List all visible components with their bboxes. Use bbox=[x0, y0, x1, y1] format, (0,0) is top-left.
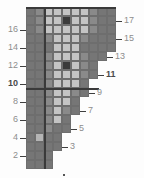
chart-cell[interactable] bbox=[53, 52, 62, 61]
chart-cell[interactable] bbox=[98, 16, 107, 25]
chart-cell[interactable] bbox=[71, 25, 80, 34]
chart-cell[interactable] bbox=[62, 115, 71, 124]
chart-cell[interactable] bbox=[53, 34, 62, 43]
chart-cell[interactable] bbox=[26, 61, 35, 70]
chart-cell[interactable] bbox=[80, 52, 89, 61]
chart-cell[interactable] bbox=[53, 70, 62, 79]
row-tick-left bbox=[20, 66, 26, 67]
row-tick-right bbox=[89, 93, 95, 94]
chart-cell[interactable] bbox=[35, 133, 44, 142]
chart-cell[interactable] bbox=[89, 52, 98, 61]
chart-cell[interactable] bbox=[71, 70, 80, 79]
chart-cell[interactable] bbox=[71, 97, 80, 106]
chart-cell[interactable] bbox=[80, 25, 89, 34]
chart-cell[interactable] bbox=[89, 16, 98, 25]
chart-cell[interactable] bbox=[53, 106, 62, 115]
chart-cell[interactable] bbox=[62, 43, 71, 52]
chart-cell[interactable] bbox=[35, 151, 44, 160]
chart-cell[interactable] bbox=[107, 34, 116, 43]
chart-cell[interactable] bbox=[107, 25, 116, 34]
chart-cell[interactable] bbox=[26, 106, 35, 115]
chart-cell[interactable] bbox=[71, 52, 80, 61]
chart-cell[interactable] bbox=[53, 61, 62, 70]
chart-cell[interactable] bbox=[89, 70, 98, 79]
chart-cell[interactable] bbox=[98, 34, 107, 43]
chart-cell[interactable] bbox=[35, 25, 44, 34]
chart-cell[interactable] bbox=[26, 151, 35, 160]
chart-cell[interactable] bbox=[53, 115, 62, 124]
chart-cell[interactable] bbox=[71, 43, 80, 52]
chart-cell[interactable] bbox=[53, 142, 62, 151]
chart-cell[interactable] bbox=[98, 43, 107, 52]
chart-cell[interactable] bbox=[53, 97, 62, 106]
chart-cell[interactable] bbox=[26, 43, 35, 52]
chart-cell[interactable] bbox=[89, 43, 98, 52]
chart-cell[interactable] bbox=[35, 97, 44, 106]
chart-cell[interactable] bbox=[71, 106, 80, 115]
chart-cell[interactable] bbox=[89, 34, 98, 43]
row-label-left: 12 bbox=[2, 61, 18, 70]
chart-cell[interactable] bbox=[62, 61, 71, 70]
chart-cell[interactable] bbox=[80, 16, 89, 25]
chart-cell[interactable] bbox=[98, 52, 107, 61]
chart-cell[interactable] bbox=[98, 25, 107, 34]
chart-cell[interactable] bbox=[53, 79, 62, 88]
chart-cell[interactable] bbox=[35, 115, 44, 124]
chart-cell[interactable] bbox=[35, 61, 44, 70]
chart-cell[interactable] bbox=[26, 16, 35, 25]
chart-cell[interactable] bbox=[53, 43, 62, 52]
chart-cell[interactable] bbox=[62, 52, 71, 61]
chart-cell[interactable] bbox=[35, 52, 44, 61]
chart-cell[interactable] bbox=[26, 97, 35, 106]
chart-cell[interactable] bbox=[62, 79, 71, 88]
chart-cell[interactable] bbox=[35, 34, 44, 43]
chart-cell[interactable] bbox=[80, 61, 89, 70]
chart-cell[interactable] bbox=[53, 16, 62, 25]
chart-cell[interactable] bbox=[35, 106, 44, 115]
chart-cell[interactable] bbox=[35, 142, 44, 151]
chart-cell[interactable] bbox=[26, 25, 35, 34]
chart-cell[interactable] bbox=[26, 34, 35, 43]
chart-cell[interactable] bbox=[26, 115, 35, 124]
chart-cell[interactable] bbox=[80, 70, 89, 79]
chart-cell[interactable] bbox=[35, 124, 44, 133]
chart-cell[interactable] bbox=[71, 61, 80, 70]
chart-cell[interactable] bbox=[62, 124, 71, 133]
chart-cell[interactable] bbox=[62, 70, 71, 79]
row-tick-right bbox=[62, 147, 68, 148]
chart-cell[interactable] bbox=[26, 124, 35, 133]
chart-cell[interactable] bbox=[35, 16, 44, 25]
chart-cell[interactable] bbox=[80, 34, 89, 43]
chart-cell[interactable] bbox=[53, 25, 62, 34]
chart-cell[interactable] bbox=[80, 79, 89, 88]
chart-cell[interactable] bbox=[62, 106, 71, 115]
chart-cell[interactable] bbox=[53, 133, 62, 142]
chart-cell[interactable] bbox=[26, 70, 35, 79]
chart-cell[interactable] bbox=[71, 79, 80, 88]
chart-cell[interactable] bbox=[35, 79, 44, 88]
chart-cell[interactable] bbox=[35, 43, 44, 52]
chart-cell[interactable] bbox=[26, 79, 35, 88]
chart-cell[interactable] bbox=[62, 16, 71, 25]
chart-cell[interactable] bbox=[71, 34, 80, 43]
chart-cell[interactable] bbox=[80, 43, 89, 52]
row-label-right: 15 bbox=[124, 34, 134, 43]
chart-cell[interactable] bbox=[62, 25, 71, 34]
row-label-left: 16 bbox=[2, 25, 18, 34]
row-label-right: 5 bbox=[79, 124, 84, 133]
chart-cell[interactable] bbox=[89, 25, 98, 34]
chart-cell[interactable] bbox=[35, 160, 44, 169]
chart-cell[interactable] bbox=[26, 133, 35, 142]
chart-cell[interactable] bbox=[62, 34, 71, 43]
chart-cell[interactable] bbox=[89, 61, 98, 70]
chart-cell[interactable] bbox=[26, 160, 35, 169]
chart-cell[interactable] bbox=[26, 52, 35, 61]
row-tick-left bbox=[20, 138, 26, 139]
chart-cell[interactable] bbox=[53, 124, 62, 133]
chart-cell[interactable] bbox=[71, 16, 80, 25]
chart-heavy-rule bbox=[26, 7, 116, 9]
chart-cell[interactable] bbox=[107, 16, 116, 25]
chart-cell[interactable] bbox=[62, 97, 71, 106]
chart-cell[interactable] bbox=[35, 70, 44, 79]
chart-cell[interactable] bbox=[26, 142, 35, 151]
